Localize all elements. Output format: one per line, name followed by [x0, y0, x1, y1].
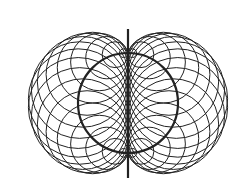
nephroid-figure — [0, 0, 248, 194]
diagram — [0, 0, 248, 194]
